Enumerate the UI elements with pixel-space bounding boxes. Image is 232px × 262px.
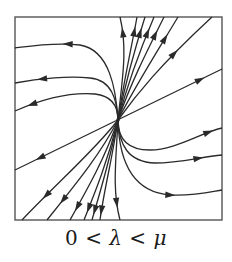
arrowhead-icon xyxy=(136,27,145,38)
arrowhead-icon xyxy=(203,127,215,136)
arrowhead-icon xyxy=(160,33,171,45)
caption-less-than-1: < xyxy=(78,226,109,250)
caption-lambda: λ xyxy=(109,226,122,250)
trajectory-bottom-6 xyxy=(47,120,118,220)
caption-zero: 0 xyxy=(65,226,78,250)
caption-mu: μ xyxy=(153,226,167,250)
arrowhead-icon xyxy=(84,202,94,214)
trajectory-upper-left-3 xyxy=(15,94,118,120)
arrowhead-icon xyxy=(194,75,206,85)
arrowhead-icon xyxy=(26,100,38,109)
phase-portrait xyxy=(0,0,232,262)
arrowhead-icon xyxy=(63,41,73,48)
trajectory-upper-left-2 xyxy=(15,77,118,120)
caption: 0 < λ < μ xyxy=(0,226,232,250)
trajectory-lower-right-2 xyxy=(118,120,222,163)
arrowhead-icon xyxy=(34,153,46,163)
arrowhead-icon xyxy=(165,192,175,199)
arrowhead-icon xyxy=(150,29,160,41)
origin-node xyxy=(116,118,120,122)
caption-less-than-2: < xyxy=(122,226,153,250)
arrowhead-icon xyxy=(72,201,82,213)
arrowhead-icon xyxy=(143,27,153,39)
arrowhead-icon xyxy=(37,75,48,82)
